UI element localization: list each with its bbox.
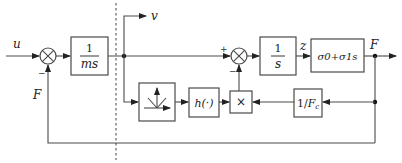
h-function-block: h(·) bbox=[189, 88, 219, 117]
sign-function-block bbox=[139, 83, 175, 121]
label-f-feedback: F bbox=[32, 88, 42, 102]
sum1-minus-sign: − bbox=[38, 68, 46, 78]
plant-denominator: ms bbox=[81, 57, 99, 71]
sum2-plus-sign: + bbox=[220, 44, 228, 54]
label-u: u bbox=[13, 37, 21, 51]
sum-junction-1 bbox=[40, 48, 56, 64]
friction-gain-block: σ0+σ1s bbox=[311, 39, 364, 72]
label-f-output: F bbox=[369, 38, 379, 52]
integrator-denominator: s bbox=[275, 57, 281, 71]
block-diagram: u − 1 ms v + − 1 s z σ0+σ1s bbox=[0, 0, 402, 163]
h-function-label: h(·) bbox=[194, 97, 213, 110]
v-output-branch bbox=[124, 16, 146, 56]
sum2-minus-sign: − bbox=[229, 66, 237, 76]
plant-block: 1 ms bbox=[71, 37, 108, 75]
sum-junction-2 bbox=[231, 48, 247, 64]
integrator-numerator: 1 bbox=[275, 42, 282, 55]
multiplier-block: × bbox=[230, 91, 252, 113]
label-z: z bbox=[299, 39, 307, 53]
label-v: v bbox=[151, 9, 158, 23]
integrator-block: 1 s bbox=[260, 37, 296, 75]
v-to-sign-branch bbox=[124, 56, 138, 102]
friction-gain-label: σ0+σ1s bbox=[318, 51, 358, 62]
plant-numerator: 1 bbox=[86, 42, 93, 55]
inverse-fc-block: 1/Fc bbox=[294, 89, 322, 117]
multiplier-label: × bbox=[236, 95, 246, 109]
